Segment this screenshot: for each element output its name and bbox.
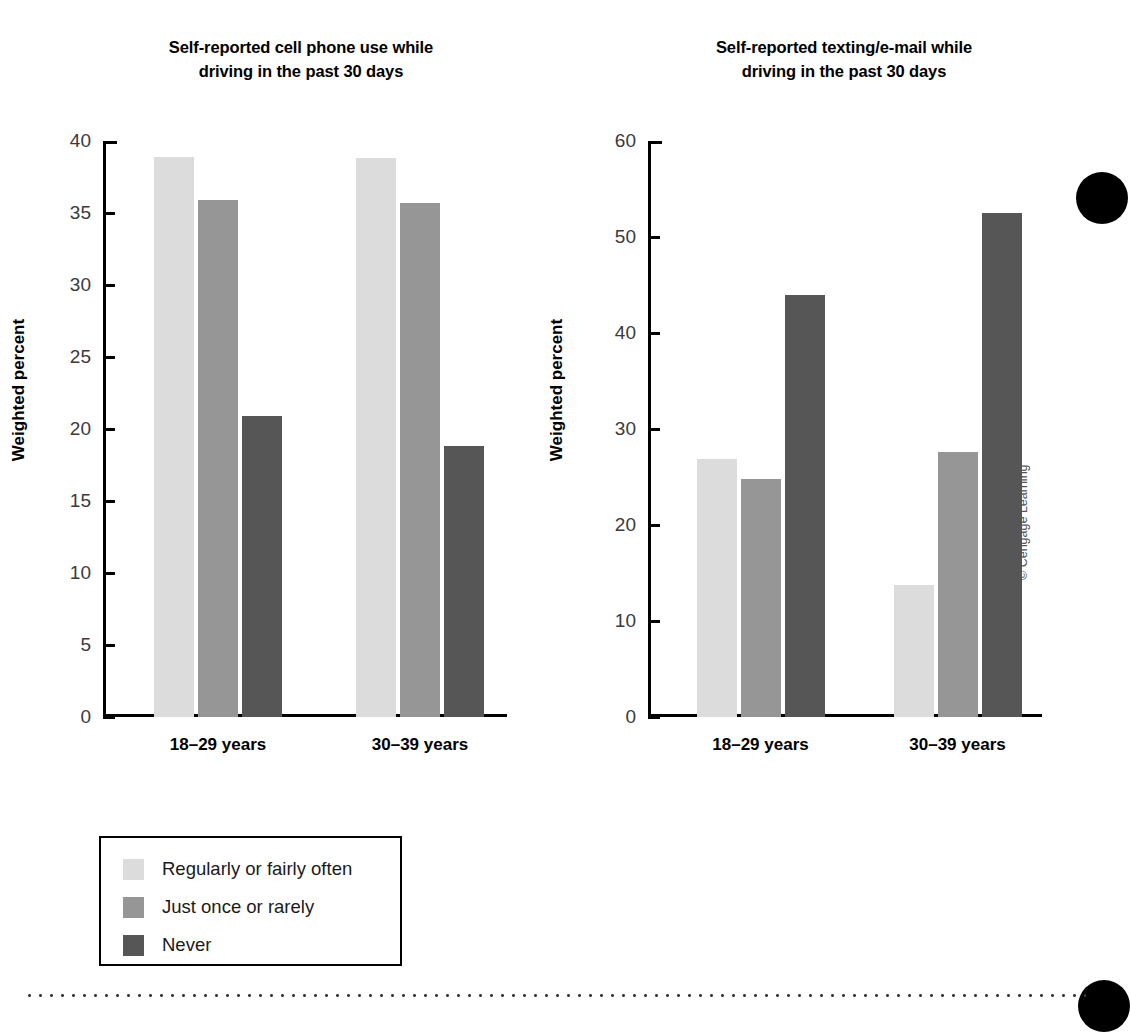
x-axis-category-label: 30–39 years	[909, 735, 1005, 755]
y-tick-mark	[648, 620, 660, 623]
x-axis-category-label: 18–29 years	[712, 735, 808, 755]
bar	[242, 416, 282, 717]
legend: Regularly or fairly oftenJust once or ra…	[99, 836, 402, 966]
y-tick-mark	[648, 332, 660, 335]
bar	[785, 295, 825, 717]
y-tick-label: 50	[615, 226, 636, 248]
chart-title-line-2: driving in the past 30 days	[742, 62, 947, 80]
bar	[894, 585, 934, 717]
legend-item: Never	[123, 934, 211, 956]
y-axis-top-cap	[103, 141, 117, 144]
y-tick-label: 30	[615, 418, 636, 440]
legend-item-label: Regularly or fairly often	[162, 858, 352, 880]
y-tick-mark	[103, 212, 115, 215]
y-tick-label: 0	[80, 706, 91, 728]
bar	[444, 446, 484, 717]
chart-title-cell-phone-use: Self-reported cell phone use while drivi…	[0, 36, 560, 84]
bar	[741, 479, 781, 717]
y-tick-label: 20	[70, 418, 91, 440]
y-tick-mark	[103, 644, 115, 647]
legend-item: Just once or rarely	[123, 896, 314, 918]
bar	[400, 203, 440, 717]
legend-item-label: Just once or rarely	[162, 896, 314, 918]
bar	[356, 158, 396, 717]
x-axis-category-label: 18–29 years	[170, 735, 266, 755]
y-tick-label: 0	[625, 706, 636, 728]
y-tick-label: 40	[615, 322, 636, 344]
y-tick-label: 10	[70, 562, 91, 584]
page-marker-dot-top	[1076, 172, 1128, 224]
chart-title-line-2: driving in the past 30 days	[199, 62, 404, 80]
y-axis-top-cap	[648, 141, 662, 144]
legend-color-swatch	[123, 897, 144, 918]
y-tick-label: 40	[70, 130, 91, 152]
y-axis-title: Weighted percent	[547, 319, 567, 461]
y-tick-label: 5	[80, 634, 91, 656]
bar	[154, 157, 194, 717]
legend-color-swatch	[123, 859, 144, 880]
legend-item-label: Never	[162, 934, 211, 956]
bar	[938, 452, 978, 717]
y-tick-label: 10	[615, 610, 636, 632]
x-axis-category-label: 30–39 years	[372, 735, 468, 755]
chart-panel-cell-phone-use: Self-reported cell phone use while drivi…	[0, 0, 560, 800]
legend-color-swatch	[123, 935, 144, 956]
bar	[198, 200, 238, 717]
y-tick-mark	[648, 428, 660, 431]
y-tick-mark	[103, 356, 115, 359]
plot-area-texting-email: 0102030405060 18–29 years30–39 years	[648, 141, 1042, 717]
bar	[697, 459, 737, 717]
y-axis-title: Weighted percent	[9, 319, 29, 461]
y-tick-mark	[648, 236, 660, 239]
chart-panel-texting-email: Self-reported texting/e-mail while drivi…	[540, 0, 1100, 800]
chart-title-line-1: Self-reported cell phone use while	[169, 38, 433, 56]
chart-title-line-1: Self-reported texting/e-mail while	[716, 38, 972, 56]
y-tick-mark	[103, 500, 115, 503]
page-marker-dot-bottom	[1078, 980, 1130, 1032]
y-tick-label: 35	[70, 202, 91, 224]
y-tick-mark	[648, 524, 660, 527]
y-tick-mark	[103, 716, 115, 719]
section-divider	[24, 994, 1086, 997]
y-tick-mark	[103, 572, 115, 575]
plot-area-cell-phone-use: 0510152025303540 18–29 years30–39 years	[103, 141, 507, 717]
y-tick-label: 30	[70, 274, 91, 296]
y-tick-label: 25	[70, 346, 91, 368]
copyright-credit: © Cengage Learning	[1016, 464, 1030, 580]
y-tick-label: 20	[615, 514, 636, 536]
y-tick-mark	[103, 428, 115, 431]
chart-title-texting-email: Self-reported texting/e-mail while drivi…	[540, 36, 1100, 84]
y-tick-mark	[103, 284, 115, 287]
y-tick-mark	[648, 716, 660, 719]
legend-item: Regularly or fairly often	[123, 858, 352, 880]
y-tick-label: 60	[615, 130, 636, 152]
y-tick-label: 15	[70, 490, 91, 512]
